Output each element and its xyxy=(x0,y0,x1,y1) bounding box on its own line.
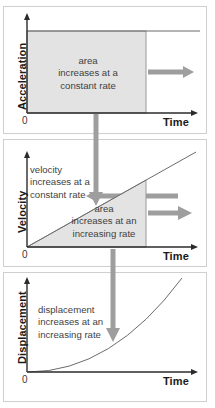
velocity-note-line-2: increases at a xyxy=(30,176,110,188)
velocity-area-note-line-1: area xyxy=(60,203,148,215)
velocity-note-line-3: constant rate xyxy=(30,189,110,201)
displacement-y-axis-label: Displacement xyxy=(16,291,28,364)
acceleration-note-line-1: area xyxy=(38,55,138,67)
displacement-note-line-2: increases at an xyxy=(38,316,128,328)
displacement-note-line-1: displacement xyxy=(38,304,128,316)
velocity-area-note-line-2: increases at an xyxy=(60,215,148,227)
velocity-origin-label: 0 xyxy=(22,249,28,260)
velocity-x-axis-label: Time xyxy=(163,250,189,262)
acceleration-y-axis-label: Acceleration xyxy=(16,43,28,110)
velocity-y-axis-label: Velocity xyxy=(16,191,28,233)
velocity-area-note: area increases at an increasing rate xyxy=(60,203,148,240)
acceleration-note: area increases at a constant rate xyxy=(38,55,138,92)
acceleration-note-line-2: increases at a xyxy=(38,67,138,79)
acceleration-x-axis-label: Time xyxy=(163,116,189,128)
velocity-note-line-1: velocity xyxy=(30,164,110,176)
displacement-origin-label: 0 xyxy=(22,374,28,385)
displacement-note: displacement increases at an increasing … xyxy=(38,304,128,341)
displacement-x-axis-label: Time xyxy=(163,375,189,387)
acceleration-origin-label: 0 xyxy=(22,115,28,126)
physics-graph-figure: Acceleration 0 Time area increases at a … xyxy=(0,0,215,408)
velocity-area-note-line-3: increasing rate xyxy=(60,228,148,240)
acceleration-note-line-3: constant rate xyxy=(38,80,138,92)
velocity-note: velocity increases at a constant rate xyxy=(30,164,110,201)
displacement-note-line-3: increasing rate xyxy=(38,329,128,341)
